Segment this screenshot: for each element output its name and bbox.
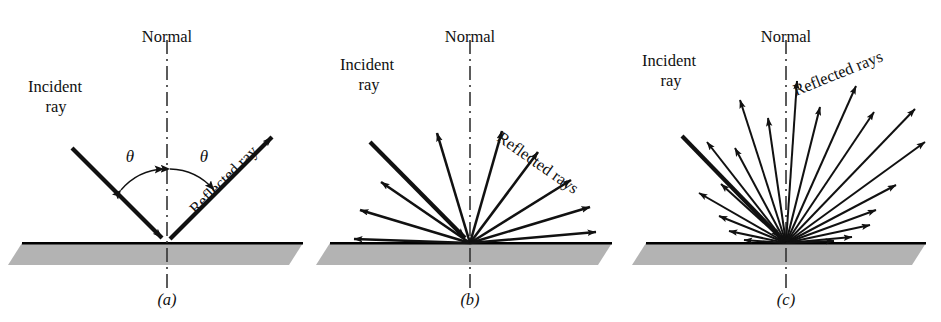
panel-a-caption: (a) bbox=[157, 290, 176, 309]
surface-slab bbox=[632, 243, 926, 265]
panel-c-fully-diffuse: Normal Incident ray Reflected rays (c) bbox=[624, 0, 937, 322]
reflected-ray bbox=[381, 182, 470, 243]
normal-label: Normal bbox=[761, 27, 812, 46]
theta-reflection-label: θ bbox=[200, 147, 208, 166]
incident-ray-label-line1: Incident bbox=[28, 77, 82, 96]
panel-b-caption: (b) bbox=[460, 290, 479, 309]
reflected-rays-label: Reflected rays bbox=[790, 47, 885, 100]
panel-a-specular: Normal Incident ray θ θ Reflected ray (a… bbox=[0, 0, 313, 322]
incident-ray-label-line1: Incident bbox=[340, 55, 394, 74]
reflected-rays-label: Reflected rays bbox=[494, 128, 583, 198]
incident-ray bbox=[72, 148, 162, 238]
panel-c-caption: (c) bbox=[777, 290, 795, 309]
reflected-ray bbox=[786, 112, 874, 243]
reflected-ray-label: Reflected ray bbox=[185, 141, 261, 217]
angle-arc-incidence bbox=[121, 169, 164, 190]
panel-c-drawing: Normal Incident ray Reflected rays (c) bbox=[624, 0, 937, 322]
surface-slab bbox=[8, 243, 303, 265]
incident-ray-label-line2: ray bbox=[358, 75, 380, 94]
reflected-ray bbox=[786, 185, 896, 243]
incident-ray-label-line2: ray bbox=[660, 71, 682, 90]
normal-label: Normal bbox=[142, 27, 193, 46]
incident-ray bbox=[370, 142, 465, 238]
theta-incidence-label: θ bbox=[126, 147, 134, 166]
reflected-ray bbox=[786, 86, 856, 243]
surface-slab bbox=[316, 243, 612, 265]
reflected-ray bbox=[786, 109, 915, 243]
panel-a-drawing: Normal Incident ray θ θ Reflected ray (a… bbox=[0, 0, 313, 322]
incident-ray-label-line1: Incident bbox=[642, 51, 696, 70]
incident-ray bbox=[682, 136, 781, 238]
normal-label: Normal bbox=[445, 27, 496, 46]
incident-ray-label-line2: ray bbox=[45, 97, 67, 116]
reflection-figure: Normal Incident ray θ θ Reflected ray (a… bbox=[0, 0, 941, 322]
panel-b-partly-diffuse: Normal Incident ray Reflected rays (b) bbox=[312, 0, 625, 322]
reflected-ray-fan bbox=[699, 81, 925, 243]
panel-b-drawing: Normal Incident ray Reflected rays (b) bbox=[312, 0, 625, 322]
